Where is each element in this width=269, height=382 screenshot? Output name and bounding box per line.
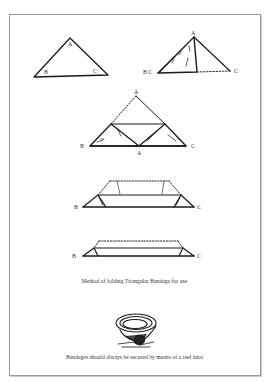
reef-knot-illustration bbox=[116, 314, 156, 347]
step4-label-c: C bbox=[197, 204, 201, 210]
folding-caption: Method of folding Triangular Bandage for… bbox=[0, 278, 269, 284]
step5-label-b: B bbox=[72, 253, 76, 259]
step3-label-a-bottom: A bbox=[137, 150, 142, 156]
bandage-folding-illustration: A B C A B C C A B C A B C B C bbox=[0, 0, 269, 382]
step3-label-b: B bbox=[80, 143, 84, 149]
step1-label-a: A bbox=[68, 41, 73, 47]
step5-label-c: C bbox=[197, 253, 201, 259]
step3-triangle bbox=[90, 96, 186, 146]
step4-band bbox=[83, 181, 194, 207]
step2-triangle bbox=[158, 37, 230, 73]
step2-label-c: C bbox=[234, 68, 238, 74]
step3-label-a-top: A bbox=[134, 89, 139, 95]
step4-label-b: B bbox=[74, 204, 78, 210]
step3-label-c: C bbox=[191, 143, 195, 149]
step2-label-a: A bbox=[191, 30, 196, 36]
reef-knot-caption: Bandages should always be secured by mea… bbox=[0, 354, 269, 360]
step1-label-c: C bbox=[93, 68, 97, 74]
step1-label-b: B bbox=[44, 69, 48, 75]
step5-band bbox=[83, 241, 194, 256]
step2-label-bc: B C bbox=[143, 69, 153, 75]
